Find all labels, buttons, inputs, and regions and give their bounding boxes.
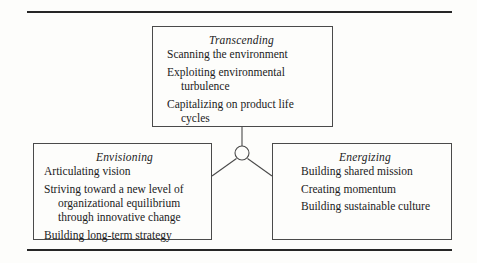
list-item: Articulating vision bbox=[44, 164, 205, 178]
list-item: Scanning the environment bbox=[167, 47, 322, 61]
list-item: Exploiting environmental turbulence bbox=[167, 65, 322, 93]
box-transcending-content: Transcending Scanning the environment Ex… bbox=[153, 27, 332, 125]
list-item: Capitalizing on product life cycles bbox=[167, 97, 322, 125]
box-envisioning-list: Articulating vision Striving toward a ne… bbox=[44, 164, 205, 242]
list-item: Creating momentum bbox=[301, 182, 445, 196]
connector-line-envisioning bbox=[212, 159, 237, 177]
box-envisioning-title: Envisioning bbox=[44, 150, 205, 164]
figure-canvas: Transcending Scanning the environment Ex… bbox=[0, 0, 477, 263]
box-energizing: Energizing Building shared mission Creat… bbox=[272, 143, 452, 240]
list-item: Building long-term strategy bbox=[44, 228, 205, 242]
list-item: Building shared mission bbox=[301, 164, 445, 178]
list-item: Striving toward a new level of organizat… bbox=[44, 182, 205, 225]
box-transcending-list: Scanning the environment Exploiting envi… bbox=[167, 47, 322, 125]
box-envisioning-content: Envisioning Articulating vision Striving… bbox=[34, 144, 211, 242]
connector-node-circle bbox=[235, 146, 249, 160]
connector-line-energizing bbox=[248, 159, 273, 177]
box-transcending-title: Transcending bbox=[167, 33, 322, 47]
box-transcending: Transcending Scanning the environment Ex… bbox=[152, 26, 333, 127]
list-item: Building sustainable culture bbox=[301, 199, 445, 213]
top-divider-rule bbox=[27, 11, 452, 13]
box-envisioning: Envisioning Articulating vision Striving… bbox=[33, 143, 212, 240]
bottom-divider-rule bbox=[27, 249, 452, 251]
box-energizing-title: Energizing bbox=[301, 150, 445, 164]
box-energizing-list: Building shared mission Creating momentu… bbox=[301, 164, 445, 214]
box-energizing-content: Energizing Building shared mission Creat… bbox=[273, 144, 451, 214]
